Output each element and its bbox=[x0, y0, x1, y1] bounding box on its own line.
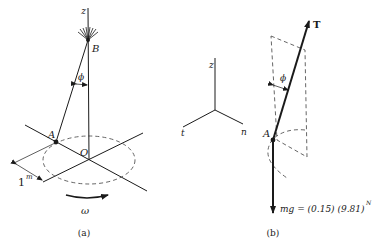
angular-velocity-arrow bbox=[66, 195, 108, 198]
tension-label: T bbox=[313, 19, 321, 30]
point-a-b bbox=[271, 138, 276, 143]
angle-phi-indicator-b bbox=[273, 85, 288, 90]
dashed-vertical-plane bbox=[271, 36, 307, 157]
diagram-canvas: z B ϕ A O 1 m ω (a) z t n T ϕ A mg = (0.… bbox=[0, 0, 377, 245]
frame-z-label: z bbox=[208, 60, 214, 70]
point-b-label: B bbox=[91, 43, 99, 54]
omega-label: ω bbox=[81, 205, 89, 216]
weight-label: mg = (0.15) (9.81) bbox=[280, 204, 365, 214]
caption-a: (a) bbox=[78, 228, 90, 238]
radius-dimension-line bbox=[14, 143, 55, 163]
figure-a: z B ϕ A O 1 m ω (a) bbox=[14, 6, 147, 238]
angle-phi-indicator bbox=[76, 84, 87, 85]
z-axis bbox=[88, 8, 89, 160]
string bbox=[56, 40, 88, 142]
weight-unit: N bbox=[365, 199, 372, 206]
plane-axis-2 bbox=[43, 133, 143, 182]
z-axis-label: z bbox=[80, 6, 86, 16]
coordinate-frame: z t n bbox=[181, 58, 247, 138]
caption-b: (b) bbox=[267, 228, 280, 238]
origin-label: O bbox=[80, 147, 88, 158]
frame-t-axis bbox=[183, 110, 215, 127]
frame-n-axis bbox=[215, 110, 243, 124]
angle-phi-label: ϕ bbox=[78, 72, 84, 82]
radius-dimension-unit: m bbox=[26, 173, 33, 181]
point-a-label: A bbox=[47, 129, 55, 140]
point-a-label-b: A bbox=[262, 128, 270, 139]
angle-phi-label-b: ϕ bbox=[280, 73, 286, 83]
figure-b: T ϕ A mg = (0.15) (9.81) N (b) bbox=[262, 19, 372, 238]
radius-dimension-label: 1 bbox=[18, 176, 25, 189]
frame-t-label: t bbox=[181, 128, 185, 138]
frame-n-label: n bbox=[241, 127, 247, 137]
